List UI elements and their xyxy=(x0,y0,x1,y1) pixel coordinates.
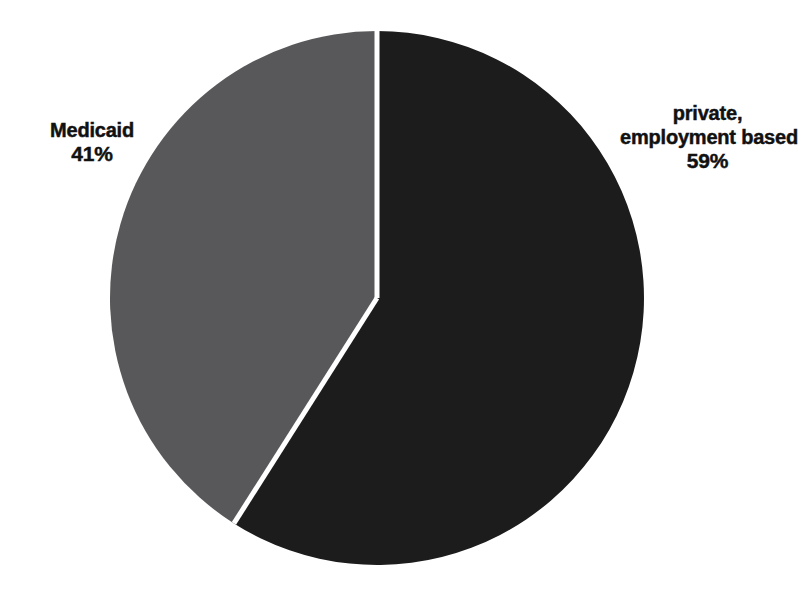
pie-chart-figure: Medicaid 41% private, employment based 5… xyxy=(0,0,803,603)
pie-label-private-percent: 59% xyxy=(620,149,795,173)
pie-label-private-line2: employment based xyxy=(620,125,795,149)
pie-label-medicaid-name: Medicaid xyxy=(12,118,172,142)
pie-label-private-employment-based: private, employment based 59% xyxy=(620,101,795,173)
pie-label-medicaid: Medicaid 41% xyxy=(12,118,172,166)
pie-chart-svg xyxy=(0,0,803,603)
pie-label-medicaid-percent: 41% xyxy=(12,142,172,166)
pie-label-private-line1: private, xyxy=(620,101,795,125)
